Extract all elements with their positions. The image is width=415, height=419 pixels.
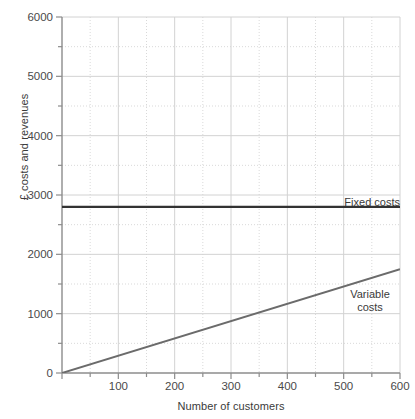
- y-tick-6000: 6000: [7, 11, 53, 23]
- plot-area: [0, 0, 415, 419]
- y-tick-1000: 1000: [7, 308, 53, 320]
- y-tick-0: 0: [7, 367, 53, 379]
- x-tick-500: 500: [314, 380, 374, 392]
- y-axis-title: £ costs and revenues: [18, 47, 30, 247]
- x-tick-100: 100: [88, 380, 148, 392]
- y-tick-4000: 4000: [7, 130, 53, 142]
- y-tick-2000: 2000: [7, 248, 53, 260]
- x-axis-ticks: [62, 373, 400, 379]
- fixed-costs-label: Fixed costs: [330, 196, 400, 209]
- x-tick-400: 400: [257, 380, 317, 392]
- cost-revenue-line-chart: 6000 5000 4000 3000 2000 1000 0 100 200 …: [0, 0, 415, 419]
- x-axis-title: Number of customers: [62, 400, 400, 412]
- y-axis-ticks: [56, 17, 62, 373]
- variable-costs-label: Variable costs: [340, 288, 400, 314]
- x-tick-300: 300: [201, 380, 261, 392]
- x-tick-600: 600: [370, 380, 415, 392]
- y-tick-5000: 5000: [7, 70, 53, 82]
- y-tick-3000: 3000: [7, 189, 53, 201]
- x-tick-200: 200: [145, 380, 205, 392]
- x-axis-tick-labels: 100 200 300 400 500 600: [0, 380, 415, 400]
